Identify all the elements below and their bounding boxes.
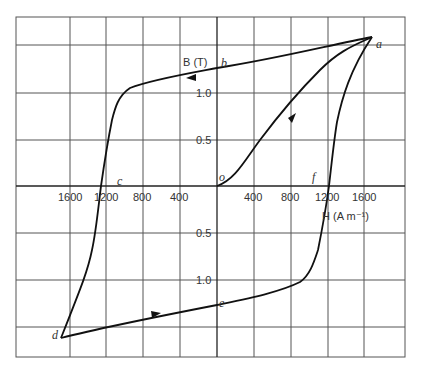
point-a: a [376,37,382,51]
y-tick-neg-0.5: 0.5 [196,227,211,239]
point-o: o [219,170,225,184]
x-tick-neg-400: 400 [170,191,188,203]
point-d: d [52,328,59,342]
x-tick-800: 800 [281,191,299,203]
initial-magnetisation-curve [217,37,372,186]
x-tick-neg-1200: 1200 [94,191,118,203]
b-axis-label: B (T) [183,56,207,68]
point-b: b [221,56,227,70]
y-tick-1.0: 1.0 [196,87,211,99]
x-tick-1600: 1600 [352,191,376,203]
hysteresis-chart: 1.0 0.5 0.5 1.0 1600 1200 800 400 400 80… [0,0,431,372]
x-tick-400: 400 [244,191,262,203]
y-tick-0.5: 0.5 [196,134,211,146]
x-tick-1200: 1200 [315,191,339,203]
x-tick-neg-800: 800 [133,191,151,203]
point-c: c [117,174,123,188]
arrow-up-right-icon [288,113,296,123]
point-e: e [219,296,225,310]
point-f: f [312,170,317,184]
y-tick-neg-1.0: 1.0 [196,274,211,286]
arrow-left-icon [186,74,196,81]
x-tick-neg-1600: 1600 [58,191,82,203]
h-axis-label: H (A m⁻¹) [322,210,369,222]
